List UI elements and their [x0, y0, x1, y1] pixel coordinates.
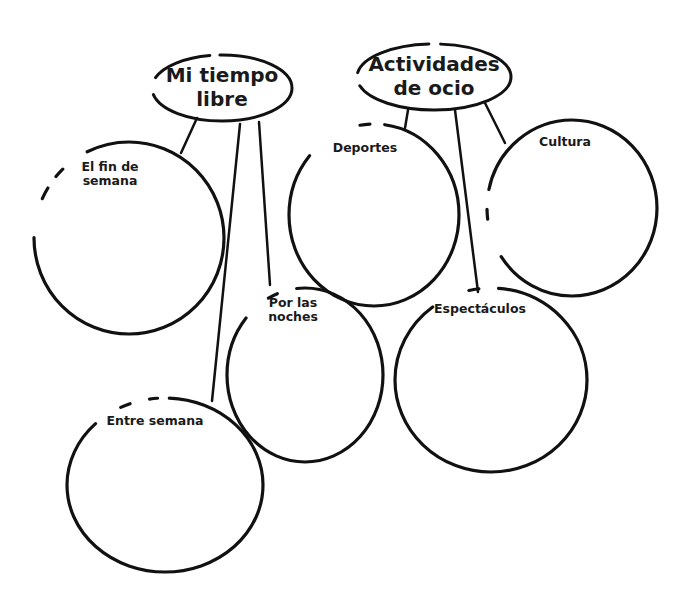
node-label-line1: Por las: [253, 296, 333, 310]
node-label-fin-de-semana: El fin de semana: [70, 160, 150, 189]
node-label-line2: noches: [253, 310, 333, 324]
connector-deportes: [405, 110, 408, 128]
node-label-line1: El fin de: [70, 160, 150, 174]
node-label-por-las-noches: Por las noches: [253, 296, 333, 325]
node-label-line1: Espectáculos: [420, 302, 540, 316]
connector-por-las-noches: [259, 122, 270, 285]
node-label-deportes: Deportes: [325, 141, 405, 155]
node-label-line1: Deportes: [325, 141, 405, 155]
hub-title-mi-tiempo-libre: Mi tiempo libre: [160, 63, 284, 111]
hub-title-line2: libre: [160, 87, 284, 111]
node-label-line1: Cultura: [530, 135, 600, 149]
hub-title-line1: Actividades: [362, 52, 506, 76]
connector-fin-de-semana: [181, 118, 197, 153]
node-label-cultura: Cultura: [530, 135, 600, 149]
mind-map-canvas: [0, 0, 694, 609]
connector-cultura: [485, 103, 505, 143]
node-label-entre-semana: Entre semana: [105, 414, 205, 428]
hub-title-line1: Mi tiempo: [160, 63, 284, 87]
node-label-line1: Entre semana: [105, 414, 205, 428]
hub-title-line2: de ocio: [362, 76, 506, 100]
connector-entre-semana: [212, 124, 240, 401]
node-label-line2: semana: [70, 174, 150, 188]
hub-title-actividades-de-ocio: Actividades de ocio: [362, 52, 506, 100]
node-label-espectaculos: Espectáculos: [420, 302, 540, 316]
